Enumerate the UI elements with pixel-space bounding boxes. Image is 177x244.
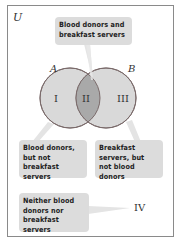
universe-label: U bbox=[13, 11, 22, 24]
callout-region-iii: Breakfast servers, but not blood donors bbox=[95, 140, 163, 178]
region-i-label: I bbox=[54, 93, 58, 104]
set-b-label: B bbox=[128, 63, 135, 74]
callout-region-ii: Blood donors and breakfast servers bbox=[55, 17, 132, 45]
region-iii-label: III bbox=[117, 93, 129, 104]
callout-tail-III bbox=[126, 120, 141, 142]
callout-tail-IV bbox=[88, 206, 130, 214]
callout-region-i: Blood donors, but not breakfast servers bbox=[19, 140, 87, 178]
region-iv-label: IV bbox=[134, 202, 145, 213]
callout-tail-I bbox=[32, 122, 54, 142]
set-a-label: A bbox=[50, 63, 57, 74]
callout-region-iv: Neither blood donors nor breakfast serve… bbox=[19, 193, 89, 232]
region-ii-label: II bbox=[82, 93, 90, 104]
